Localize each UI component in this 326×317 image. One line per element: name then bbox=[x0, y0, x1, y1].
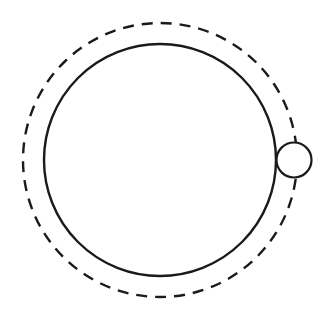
orbit-diagram bbox=[0, 0, 326, 317]
central-body-circle bbox=[44, 44, 276, 276]
orbit-path-dashed bbox=[23, 23, 297, 297]
orbiting-body-circle bbox=[277, 143, 312, 178]
